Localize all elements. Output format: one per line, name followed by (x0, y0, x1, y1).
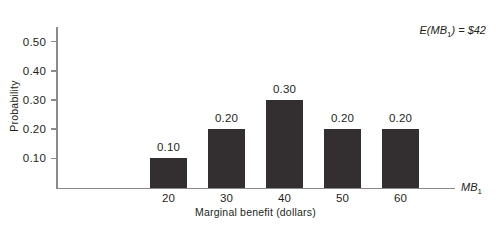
bar-value-label: 0.20 (389, 112, 412, 124)
y-axis-title: Probability (8, 61, 20, 151)
y-axis-tick-label: 0.40 (23, 65, 46, 77)
x-axis-tick-label: 50 (324, 192, 361, 204)
y-axis-tick-label: 0.30 (23, 94, 46, 106)
y-axis-line (56, 27, 58, 188)
x-axis-line (56, 188, 455, 190)
x-axis-tick-label: 60 (382, 192, 419, 204)
x-axis-tick-label: 20 (150, 192, 187, 204)
bar: 0.20 (208, 129, 245, 187)
y-axis-tick: 0.40 (51, 70, 57, 72)
probability-bar-chart: Probability 0.100.200.300.400.50 0.10200… (0, 0, 496, 228)
y-axis-tick-label: 0.20 (23, 123, 46, 135)
x-axis-title: Marginal benefit (dollars) (56, 206, 455, 218)
bar-value-label: 0.20 (215, 112, 238, 124)
bar: 0.20 (324, 129, 361, 187)
bar: 0.30 (266, 100, 303, 188)
y-axis-tick: 0.20 (51, 128, 57, 130)
x-axis-tick-label: 30 (208, 192, 245, 204)
x-axis-end-label: MB1 (461, 181, 482, 196)
y-axis-tick-mark (51, 128, 57, 130)
y-axis-tick: 0.50 (51, 41, 57, 43)
y-axis-tick-label: 0.10 (23, 152, 46, 164)
expected-value-annotation: E(MB1) = $42 (420, 24, 486, 39)
y-axis-tick-mark (51, 70, 57, 72)
y-axis-tick: 0.30 (51, 99, 57, 101)
bar: 0.20 (382, 129, 419, 187)
y-axis-tick-label: 0.50 (23, 36, 46, 48)
bar-value-label: 0.30 (273, 83, 296, 95)
bar-value-label: 0.10 (157, 141, 180, 153)
y-axis-tick-mark (51, 158, 57, 160)
y-axis-tick-mark (51, 99, 57, 101)
y-axis-tick-mark (51, 41, 57, 43)
x-axis-tick-label: 40 (266, 192, 303, 204)
bar-value-label: 0.20 (331, 112, 354, 124)
bar: 0.10 (150, 158, 187, 187)
y-axis-tick: 0.10 (51, 158, 57, 160)
